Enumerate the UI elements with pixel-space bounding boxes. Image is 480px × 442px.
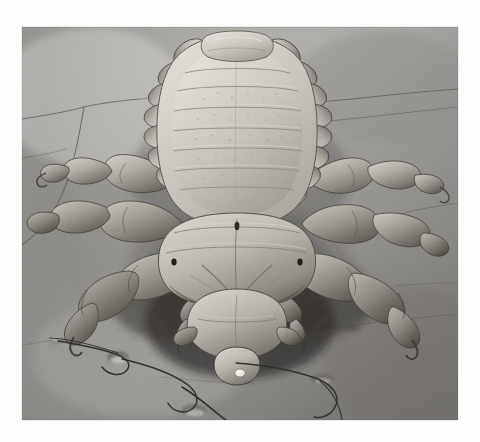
sem-micrograph-image xyxy=(22,27,458,420)
film-grain xyxy=(22,27,458,420)
sem-micrograph-plate xyxy=(22,27,458,420)
photo-page: Scanning electron micrograph of a head l… xyxy=(0,0,480,442)
